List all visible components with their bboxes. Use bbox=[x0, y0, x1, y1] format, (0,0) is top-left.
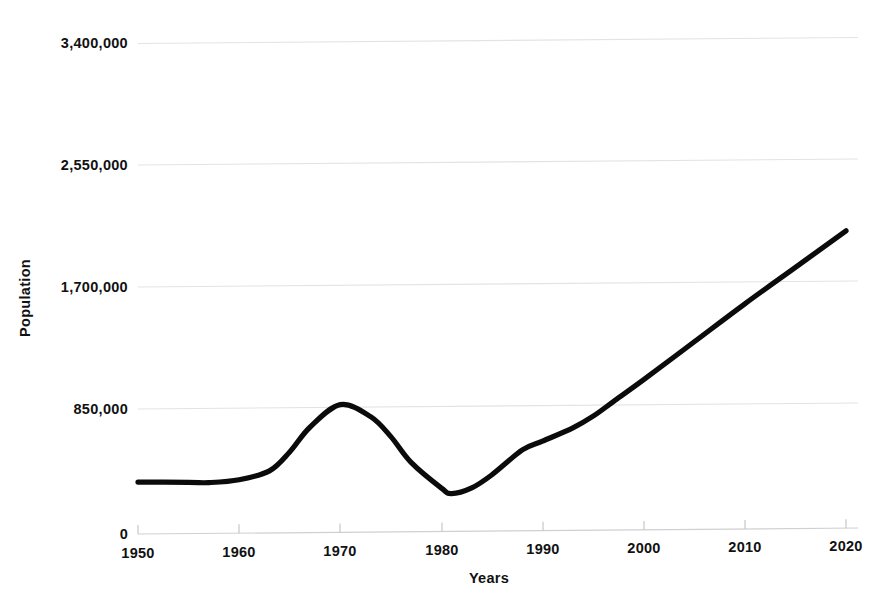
population-line-chart: 3,400,000 2,550,000 1,700,000 850,000 0 … bbox=[0, 0, 887, 608]
x-tick-label-2000: 2000 bbox=[627, 540, 660, 556]
x-axis-tick-labels: 1950 1960 1970 1980 1990 2000 2010 2020 bbox=[121, 538, 862, 561]
x-tick-label-1950: 1950 bbox=[121, 545, 154, 561]
y-axis-tick-labels: 3,400,000 2,550,000 1,700,000 850,000 0 bbox=[61, 35, 128, 542]
y-tick-label-1700000: 1,700,000 bbox=[61, 279, 128, 295]
gridline-2550000 bbox=[138, 159, 858, 165]
x-tick-label-1990: 1990 bbox=[526, 541, 559, 557]
x-tick-label-1970: 1970 bbox=[323, 543, 356, 559]
chart-canvas: 3,400,000 2,550,000 1,700,000 850,000 0 … bbox=[0, 0, 887, 608]
y-axis-title: Population bbox=[17, 259, 33, 337]
x-tick-label-2020: 2020 bbox=[829, 538, 862, 554]
y-tick-label-0: 0 bbox=[120, 526, 128, 542]
x-tick-label-1960: 1960 bbox=[222, 544, 255, 560]
y-tick-label-850000: 850,000 bbox=[73, 401, 128, 417]
x-axis-line bbox=[138, 528, 858, 534]
y-tick-label-3400000: 3,400,000 bbox=[61, 35, 128, 51]
x-tick-marks bbox=[138, 519, 846, 534]
gridline-1700000 bbox=[138, 281, 858, 287]
population-series-line bbox=[138, 231, 846, 494]
x-axis-title: Years bbox=[469, 570, 509, 586]
gridline-3400000 bbox=[138, 38, 858, 44]
gridline-850000 bbox=[138, 403, 858, 409]
x-tick-label-2010: 2010 bbox=[728, 539, 761, 555]
x-tick-label-1980: 1980 bbox=[425, 542, 458, 558]
y-tick-label-2550000: 2,550,000 bbox=[61, 157, 128, 173]
gridlines bbox=[138, 38, 858, 410]
